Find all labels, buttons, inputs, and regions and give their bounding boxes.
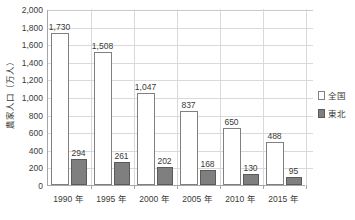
x-axis-tick-label: 2010 年 — [225, 192, 255, 204]
y-axis-tick-label: 0 — [38, 181, 43, 191]
y-axis-tick-labels: 02004006008001,0001,2001,4001,6001,8002,… — [16, 10, 45, 186]
legend-label-tohoku: 東北 — [328, 107, 346, 119]
x-axis-tick-mark — [134, 185, 135, 189]
bar-value-label-national: 1,730 — [49, 22, 70, 32]
bar-value-label-national: 1,508 — [92, 41, 113, 51]
x-axis-tick-label: 2015 年 — [268, 192, 298, 204]
bar-national[interactable] — [137, 93, 155, 185]
y-axis-tick-label: 1,200 — [22, 75, 43, 85]
y-axis-tick-label: 1,000 — [22, 93, 43, 103]
category-separator — [220, 9, 221, 185]
y-axis-tick-label: 1,800 — [22, 23, 43, 33]
legend-item-national: 全国 — [318, 88, 355, 102]
x-axis-tick-labels: 1990 年1995 年2000 年2005 年2010 年2015 年 — [47, 192, 305, 208]
bar-tohoku[interactable] — [114, 162, 130, 185]
bar-value-label-tohoku: 202 — [157, 156, 171, 166]
bar-national[interactable] — [94, 52, 112, 185]
bar-value-label-national: 650 — [224, 117, 238, 127]
bar-national[interactable] — [180, 111, 198, 185]
y-axis-title-label: 農家人口（万人） — [3, 57, 15, 129]
x-axis-tick-mark — [220, 185, 221, 189]
category-separator — [177, 9, 178, 185]
y-axis-tick-label: 1,400 — [22, 58, 43, 68]
x-axis-tick-label: 1990 年 — [53, 192, 83, 204]
bar-chart: 農家人口（万人） 02004006008001,0001,2001,4001,6… — [0, 0, 355, 220]
gridline — [48, 28, 313, 29]
bar-value-label-tohoku: 168 — [200, 159, 214, 169]
gridline — [48, 63, 313, 64]
gridline — [48, 10, 313, 11]
gridline — [48, 45, 313, 46]
x-axis-tick-label: 1995 年 — [96, 192, 126, 204]
bar-tohoku[interactable] — [71, 159, 87, 185]
x-axis-tick-mark — [263, 185, 264, 189]
y-axis-tick-label: 600 — [29, 128, 43, 138]
category-separator — [91, 9, 92, 185]
category-separator — [306, 9, 307, 185]
bar-tohoku[interactable] — [286, 177, 302, 185]
bar-value-label-national: 1,047 — [135, 82, 156, 92]
gridline — [48, 98, 313, 99]
y-axis-tick-label: 400 — [29, 146, 43, 156]
x-axis-tick-mark — [91, 185, 92, 189]
y-axis-tick-label: 1,600 — [22, 40, 43, 50]
bar-value-label-tohoku: 294 — [71, 148, 85, 158]
bar-value-label-tohoku: 95 — [289, 166, 298, 176]
legend-label-national: 全国 — [328, 89, 346, 101]
x-axis-tick-mark — [306, 185, 307, 189]
x-axis-tick-mark — [177, 185, 178, 189]
legend-swatch-tohoku-icon — [318, 109, 325, 118]
legend-swatch-national-icon — [318, 91, 325, 100]
y-axis-tick-label: 800 — [29, 111, 43, 121]
bar-tohoku[interactable] — [200, 170, 216, 185]
chart-legend: 全国 東北 — [318, 88, 355, 124]
x-axis-tick-label: 2005 年 — [182, 192, 212, 204]
gridline — [48, 80, 313, 81]
legend-item-tohoku: 東北 — [318, 106, 355, 120]
y-axis-tick-label: 200 — [29, 163, 43, 173]
category-separator — [134, 9, 135, 185]
bar-national[interactable] — [266, 142, 284, 185]
bar-value-label-tohoku: 261 — [114, 151, 128, 161]
bar-value-label-national: 837 — [181, 100, 195, 110]
bar-value-label-national: 488 — [267, 131, 281, 141]
category-separator — [263, 9, 264, 185]
bar-value-label-tohoku: 130 — [243, 163, 257, 173]
plot-area: 1,7302941,5082611,0472028371686501304889… — [47, 10, 305, 186]
y-axis-tick-label: 2,000 — [22, 5, 43, 15]
bar-national[interactable] — [223, 128, 241, 185]
bar-tohoku[interactable] — [243, 174, 259, 185]
bar-national[interactable] — [51, 33, 69, 185]
bar-tohoku[interactable] — [157, 167, 173, 185]
x-axis-tick-label: 2000 年 — [139, 192, 169, 204]
